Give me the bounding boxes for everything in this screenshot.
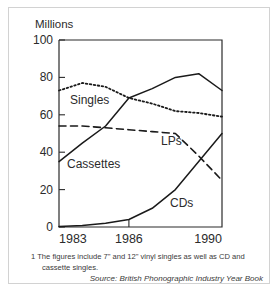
y-tick-label-40: 40 [40,145,54,159]
figure-card: Millions 100 80 60 40 20 0 1983 1986 199… [8,7,270,284]
source-attribution: Source: British Phonographic Industry Ye… [9,273,271,283]
series-label-cds: CDs [170,196,193,210]
x-tick-label-1983: 1983 [59,232,87,246]
y-tick-marks [59,40,65,227]
y-tick-label-60: 60 [40,108,54,122]
series-line-cassettes [59,74,222,162]
footnote-line-2: cassette singles. [9,262,271,273]
line-chart: Millions 100 80 60 40 20 0 1983 1986 199… [9,8,271,256]
footnotes: 1 The figures include 7" and 12" vinyl s… [9,251,271,283]
y-tick-label-100: 100 [33,33,53,47]
plot-frame [59,40,222,227]
y-tick-label-0: 0 [46,220,53,234]
x-tick-label-1986: 1986 [115,232,143,246]
series-label-singles: Singles [70,93,109,107]
footnote-line-1: 1 The figures include 7" and 12" vinyl s… [9,251,271,262]
series-line-cds [59,134,222,227]
y-tick-label-20: 20 [40,183,54,197]
series-label-lps: LPs [161,134,182,148]
series-line-lps [59,126,222,180]
y-axis-title: Millions [35,18,74,30]
x-tick-label-1990: 1990 [194,232,222,246]
y-tick-label-80: 80 [40,70,54,84]
series-label-cassettes: Cassettes [67,157,120,171]
